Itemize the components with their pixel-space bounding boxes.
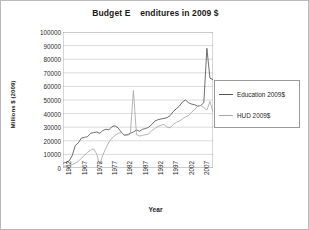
y-tick-label: 80000 (9, 56, 61, 63)
legend-swatch-icon (219, 94, 233, 95)
x-tick-label: 1962 (65, 161, 72, 175)
x-axis-tick-labels: 1962196719721977198219871992199720022007 (63, 171, 213, 205)
y-axis-tick-labels: 1000009000080000700006000050000400003000… (5, 32, 61, 168)
x-tick-label: 1982 (126, 161, 133, 175)
legend-swatch-icon (219, 115, 233, 116)
y-tick-label: 40000 (9, 110, 61, 117)
x-tick-label: 1992 (157, 161, 164, 175)
series-line (63, 90, 213, 166)
x-axis-title: Year (1, 206, 309, 213)
legend-label: Education 2009$ (237, 91, 285, 98)
legend-item[interactable]: Education 2009$ (219, 91, 285, 98)
legend: Education 2009$HUD 2009$ (214, 80, 300, 128)
x-tick-label: 2002 (188, 161, 195, 175)
x-tick-label: 1987 (142, 161, 149, 175)
x-tick-label: 1997 (172, 161, 179, 175)
chart-title: Budget E enditures in 2009 $ (1, 8, 309, 18)
x-tick-label: 2007 (203, 161, 210, 175)
y-tick-label: 50000 (9, 97, 61, 104)
y-tick-label: 70000 (9, 69, 61, 76)
plot-svg (63, 32, 213, 168)
x-tick-label: 1967 (81, 161, 88, 175)
data-series (63, 48, 213, 166)
legend-label: HUD 2009$ (237, 112, 270, 119)
x-tick-label: 1972 (96, 161, 103, 175)
y-tick-label: 90000 (9, 42, 61, 49)
legend-item[interactable]: HUD 2009$ (219, 112, 270, 119)
y-tick-label: 60000 (9, 83, 61, 90)
plot-area (63, 32, 213, 168)
y-tick-label: 20000 (9, 137, 61, 144)
y-tick-label: 0 (9, 165, 61, 172)
gridlines (63, 32, 213, 168)
x-tick-label: 1977 (111, 161, 118, 175)
y-tick-label: 10000 (9, 151, 61, 158)
y-tick-label: 30000 (9, 124, 61, 131)
series-line (63, 48, 213, 163)
y-tick-label: 100000 (9, 29, 61, 36)
chart-container: Budget E enditures in 2009 $ Millions $ … (0, 0, 309, 230)
